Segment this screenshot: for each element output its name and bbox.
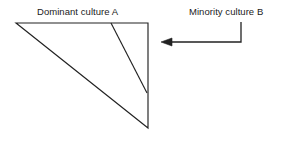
- label-dominant-culture-a: Dominant culture A: [37, 6, 118, 17]
- right-triangle: [16, 23, 148, 128]
- inner-diagonal-line: [111, 23, 147, 93]
- minority-arrow-head-icon: [161, 38, 172, 46]
- diagram-graphic: [0, 0, 283, 141]
- diagram-canvas: Dominant culture A Minority culture B: [0, 0, 283, 141]
- label-minority-culture-b: Minority culture B: [189, 6, 263, 17]
- minority-arrow-shaft: [168, 22, 241, 42]
